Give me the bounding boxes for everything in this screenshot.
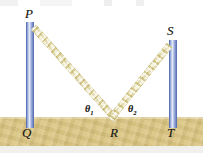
beam-incident-pr [31, 25, 119, 122]
angle-label-theta2: θ2 [128, 104, 136, 117]
theta1-subscript: 1 [90, 109, 93, 116]
point-label-r: R [110, 126, 118, 139]
angle-label-theta1: θ1 [85, 104, 93, 117]
point-label-s: S [167, 24, 174, 37]
pole-left-pq [26, 22, 34, 128]
beam-reflected-rs [108, 43, 173, 122]
point-label-t: T [167, 126, 174, 139]
scan-artifact-bottom [0, 146, 203, 153]
physics-diagram-reflection: P Q R S T θ1 θ2 [0, 0, 203, 153]
point-label-p: P [25, 7, 33, 20]
point-label-q: Q [22, 126, 31, 139]
pole-right-st [169, 40, 177, 128]
theta2-subscript: 2 [133, 109, 136, 116]
